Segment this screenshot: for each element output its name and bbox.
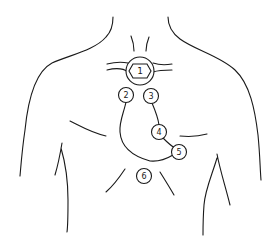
heart-border-right <box>152 103 159 125</box>
throat-line-left <box>131 36 134 51</box>
pectoral-right <box>180 134 207 136</box>
clavicle-right-upper <box>153 63 172 65</box>
throat-line-right <box>146 37 149 51</box>
torso-outline <box>20 17 261 235</box>
marker-3-label: 3 <box>148 92 153 101</box>
marker-2-label: 2 <box>123 91 128 100</box>
clavicle-left-upper <box>107 62 128 64</box>
rib-left <box>106 169 125 192</box>
marker-1[interactable]: 1 <box>126 57 154 85</box>
marker-4-label: 4 <box>156 128 161 137</box>
chest-diagram: 1 2 3 4 5 6 <box>0 0 276 245</box>
marker-2[interactable]: 2 <box>119 88 134 103</box>
clavicle-right-lower <box>153 70 172 72</box>
marker-6[interactable]: 6 <box>137 169 152 184</box>
marker-3[interactable]: 3 <box>144 89 159 104</box>
marker-6-label: 6 <box>141 172 146 181</box>
marker-5-label: 5 <box>176 148 181 157</box>
rib-right <box>160 172 174 195</box>
clavicle-left-lower <box>107 69 128 72</box>
marker-5[interactable]: 5 <box>172 145 187 160</box>
marker-1-label: 1 <box>137 66 143 76</box>
arm-inner-right <box>203 154 230 235</box>
marker-4[interactable]: 4 <box>152 125 167 140</box>
neck-left <box>20 17 113 176</box>
arm-inner-left <box>55 143 68 232</box>
pectoral-left <box>70 121 106 136</box>
